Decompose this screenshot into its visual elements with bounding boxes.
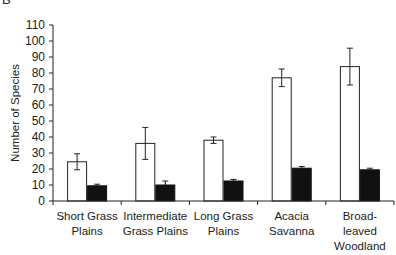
bar-open xyxy=(272,78,291,201)
bar-filled xyxy=(224,181,243,201)
bars xyxy=(68,48,380,201)
y-axis-label: Number of Species xyxy=(9,64,21,162)
bar-filled xyxy=(292,168,311,201)
bar-filled xyxy=(360,170,379,201)
y-tick-label: 30 xyxy=(32,146,46,160)
y-tick-label: 60 xyxy=(32,98,46,112)
x-axis: Short GrassPlainsIntermediateGrass Plain… xyxy=(53,201,394,252)
category-label: IntermediateGrass Plains xyxy=(123,210,188,237)
bar-filled xyxy=(88,186,107,201)
y-tick-label: 20 xyxy=(32,162,46,176)
category-label: AcaciaSavanna xyxy=(269,210,315,237)
bar-chart: 0102030405060708090100110 Short GrassPla… xyxy=(0,0,396,255)
y-tick-label: 90 xyxy=(32,50,46,64)
category-label: Short GrassPlains xyxy=(56,210,118,237)
y-tick-label: 40 xyxy=(32,130,46,144)
category-label: Broad-leavedWoodland xyxy=(334,210,386,252)
y-tick-label: 80 xyxy=(32,66,46,80)
y-tick-label: 110 xyxy=(26,18,45,32)
error-bar xyxy=(162,181,168,185)
bar-filled xyxy=(156,185,175,201)
category-label: Long GrassPlains xyxy=(194,210,254,237)
bar-open xyxy=(340,67,359,201)
y-tick-label: 0 xyxy=(38,194,45,208)
y-tick-label: 50 xyxy=(32,114,46,128)
bar-open xyxy=(204,140,223,201)
y-tick-label: 70 xyxy=(32,82,46,96)
y-tick-label: 100 xyxy=(25,34,45,48)
y-tick-label: 10 xyxy=(32,178,46,192)
y-axis: 0102030405060708090100110 xyxy=(25,18,53,208)
